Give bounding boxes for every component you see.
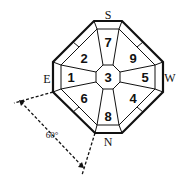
divider [120, 65, 155, 72]
sector-label-bottom: 8 [104, 109, 111, 124]
divider [97, 89, 103, 125]
divider [113, 29, 119, 65]
divider [61, 82, 96, 89]
ring-connector [119, 21, 122, 29]
divider [120, 82, 155, 89]
ring-tick [73, 42, 79, 47]
direction-label-south: S [105, 8, 112, 22]
sector-label-center: 3 [104, 70, 111, 85]
direction-label-north: N [104, 135, 113, 149]
sector-label-bottom-left: 6 [80, 91, 87, 106]
arrow-head-start [19, 100, 25, 106]
ring-connector [53, 89, 61, 92]
sector-label-right: 5 [141, 70, 148, 85]
divider [61, 65, 96, 72]
sector-label-top-left: 2 [80, 51, 87, 66]
ring-connector [155, 62, 163, 65]
ring-connector [95, 125, 97, 133]
direction-label-west: W [164, 71, 176, 85]
octagon-compass-diagram: 7 2 9 1 3 5 6 4 8 S W N E 60° [0, 0, 186, 184]
ring-tick [137, 42, 143, 47]
ring-tick [73, 107, 79, 112]
direction-label-east: E [43, 72, 50, 86]
sector-label-top: 7 [104, 35, 111, 50]
ring-connector [155, 89, 163, 92]
arrow-head-end [78, 162, 84, 168]
ring-connector [119, 125, 122, 133]
divider [97, 29, 103, 65]
sector-label-bottom-right: 4 [129, 91, 137, 106]
ring-connector [94, 21, 97, 29]
sector-label-top-right: 9 [129, 51, 136, 66]
divider [113, 89, 119, 125]
angle-label: 60° [46, 130, 59, 140]
dashed-ray-north [82, 133, 95, 175]
sector-label-left: 1 [67, 70, 74, 85]
ring-connector [53, 62, 61, 65]
ring-tick [137, 107, 143, 112]
